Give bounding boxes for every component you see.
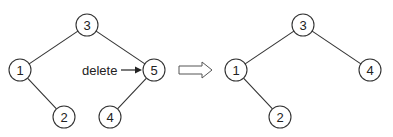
tree-node-after-4: 4 xyxy=(359,59,381,81)
tree-edge xyxy=(244,78,273,109)
node-label: 1 xyxy=(232,63,239,78)
delete-annotation: delete xyxy=(82,63,142,78)
tree-node-before-4: 4 xyxy=(99,106,121,128)
node-label: 3 xyxy=(83,18,90,33)
tree-edge xyxy=(29,31,78,64)
tree-node-after-1: 1 xyxy=(225,59,247,81)
tree-edge xyxy=(96,31,145,64)
node-label: 3 xyxy=(299,18,306,33)
tree-node-before-5: 5 xyxy=(143,59,165,81)
node-label: 4 xyxy=(366,63,373,78)
node-label: 1 xyxy=(16,63,23,78)
diagram-canvas: 315243142 delete xyxy=(0,0,393,137)
delete-label: delete xyxy=(82,63,117,78)
right-arrow-icon xyxy=(179,62,212,78)
node-label: 2 xyxy=(276,110,283,125)
tree-node-after-3: 3 xyxy=(292,14,314,36)
tree-node-before-2: 2 xyxy=(53,106,75,128)
node-label: 2 xyxy=(60,110,67,125)
bst-delete-diagram: 315243142 delete xyxy=(0,0,393,137)
tree-edge xyxy=(312,31,361,64)
tree-edge xyxy=(245,31,294,64)
tree-node-after-2: 2 xyxy=(269,106,291,128)
node-label: 5 xyxy=(150,63,157,78)
tree-edge xyxy=(28,78,57,109)
tree-node-before-3: 3 xyxy=(76,14,98,36)
tree-edge xyxy=(118,78,147,109)
tree-node-before-1: 1 xyxy=(9,59,31,81)
delete-pointer-arrowhead-icon xyxy=(135,67,142,74)
node-label: 4 xyxy=(106,110,113,125)
